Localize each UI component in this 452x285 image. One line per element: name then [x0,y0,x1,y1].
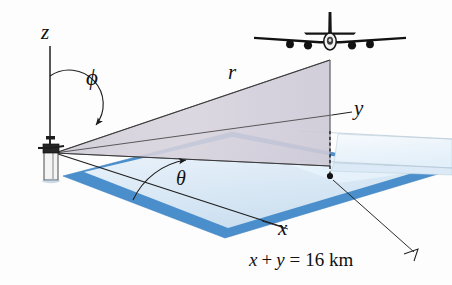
airplane-pylon-outer-left [289,40,291,44]
airplane-nose-highlight [329,39,332,43]
constraint-equation: x+y=16 km [249,250,353,269]
y-axis-label: y [354,98,363,119]
theta-angle-label: θ [176,168,186,188]
z-axis-label: z [41,22,49,43]
r-distance-label: r [228,62,236,83]
constraint-y-term: y [276,249,284,270]
y-label-leader-line [332,112,352,115]
constraint-value: 16 km [305,249,353,270]
callout-arrow-hook [404,249,418,261]
constraint-equals-sign: = [290,249,301,270]
constraint-x-term: x [249,249,257,270]
airplane [254,12,406,50]
phi-angle-label: ϕ [86,66,98,89]
radar-mast-cap [46,136,55,140]
airplane-pylon-inner-right [351,41,353,45]
ground-contact-point [327,173,333,179]
radar-base-shadow [42,179,60,183]
radar-spherical-coordinates-figure: z ϕ θ r y x x+y=16 km [0,0,452,285]
radar-tower-body [44,152,58,180]
radar-station [38,136,64,183]
x-axis-label: x [278,218,287,239]
airplane-pylon-inner-left [307,41,309,45]
diagram-canvas [0,0,452,285]
airplane-pylon-outer-right [369,40,371,44]
constraint-plus-sign: + [261,249,272,270]
